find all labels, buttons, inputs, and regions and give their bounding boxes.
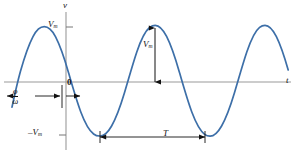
amplitude-negative-label: –Vm (28, 128, 42, 138)
phase-numerator: φ (12, 88, 18, 97)
period-label: T (163, 129, 168, 138)
amplitude-negative-subscript: m (38, 131, 42, 137)
origin-label: 0 (67, 78, 72, 87)
amplitude-negative-symbol: –V (28, 127, 38, 137)
amplitude-measure-subscript: m (149, 43, 153, 49)
amplitude-measure-label: Vm (143, 40, 153, 50)
figure-canvas: v t 0 Vm –Vm Vm T φ ω (0, 0, 297, 154)
y-axis-label: v (63, 1, 67, 10)
phase-shift-label: φ ω (12, 88, 18, 106)
amplitude-positive-label: Vm (48, 20, 58, 30)
x-axis-label: t (286, 76, 289, 85)
phase-denominator: ω (12, 97, 18, 106)
amplitude-positive-subscript: m (54, 23, 58, 29)
waveform-figure (0, 0, 297, 154)
